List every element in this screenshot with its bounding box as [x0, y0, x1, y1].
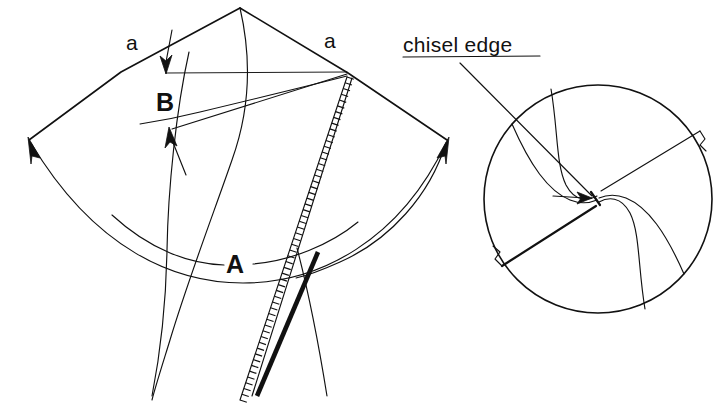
- label-region-a: A: [226, 250, 244, 278]
- serration-tick: [313, 181, 320, 183]
- serration-tick: [240, 400, 247, 402]
- serration-tick: [248, 377, 255, 379]
- label-chisel-edge: chisel edge: [403, 33, 513, 56]
- serration-tick: [318, 164, 325, 166]
- serration-tick: [259, 342, 266, 344]
- serration-tick: [250, 371, 257, 373]
- serration-tick: [286, 262, 293, 264]
- outline-upper-right-edge: [240, 8, 447, 140]
- serration-tick: [246, 383, 253, 385]
- serration-tick: [255, 354, 262, 356]
- serration-tick: [316, 169, 323, 171]
- serration-tick: [282, 273, 289, 275]
- serration-tick: [271, 308, 278, 310]
- serration-tick: [267, 319, 274, 321]
- technical-drawing-figure: a a B A chisel edge: [0, 0, 722, 406]
- serration-tick: [261, 337, 268, 339]
- serration-tick: [263, 331, 270, 333]
- serration-tick: [299, 221, 306, 223]
- outline-upper-left-edge: [29, 8, 240, 140]
- serration-tick: [311, 187, 318, 189]
- serration-tick: [244, 388, 251, 390]
- serration-tick: [278, 285, 285, 287]
- serration-tick: [294, 239, 301, 241]
- serration-tick: [295, 233, 302, 235]
- serration-tick: [309, 192, 316, 194]
- serration-tick: [347, 77, 354, 79]
- label-angle-a-left: a: [126, 31, 138, 54]
- serration-tick: [272, 302, 279, 304]
- flute-curve-lower: [599, 199, 645, 309]
- horizontal-reference-line: [166, 72, 347, 73]
- serration-tick: [269, 313, 276, 315]
- left-vertex-arrowhead: [28, 137, 40, 164]
- drill-geometry-svg: a a B A chisel edge: [0, 0, 722, 406]
- serration-tick: [303, 210, 310, 212]
- flute-land-arc-upper: [512, 124, 597, 203]
- serration-tick: [242, 394, 249, 396]
- right-diagram-group: [484, 85, 712, 313]
- cutting-lip-lower-left: [502, 206, 596, 266]
- serration-tick: [292, 244, 299, 246]
- cutting-lip-upper-right: [601, 131, 700, 191]
- serration-tick: [315, 175, 322, 177]
- flute-land-arc-lower: [599, 195, 684, 274]
- callout-leader-line: [460, 63, 592, 196]
- left-diagram-group: [28, 8, 449, 402]
- label-region-b: B: [156, 88, 174, 116]
- serration-tick: [307, 198, 314, 200]
- serration-tick: [265, 325, 272, 327]
- serration-tick: [276, 290, 283, 292]
- drill-body-circle: [484, 85, 712, 313]
- serration-tick: [274, 296, 281, 298]
- flute-curve-upper: [551, 89, 597, 199]
- angle-a-left-arrowhead: [160, 55, 172, 74]
- serration-tick: [297, 227, 304, 229]
- serration-tick: [284, 267, 291, 269]
- callout-underline: [403, 56, 540, 57]
- serration-tick: [301, 215, 308, 217]
- serration-tick: [253, 360, 260, 362]
- serration-tick: [257, 348, 264, 350]
- label-angle-a-right: a: [324, 29, 336, 52]
- serration-tick: [290, 250, 297, 252]
- margin-step-lower-left: [493, 246, 502, 266]
- bold-chisel-edge-line: [257, 252, 318, 396]
- callout-group: [403, 56, 592, 196]
- serration-tick: [305, 204, 312, 206]
- serration-tick: [251, 365, 258, 367]
- margin-step-upper-right: [700, 131, 706, 151]
